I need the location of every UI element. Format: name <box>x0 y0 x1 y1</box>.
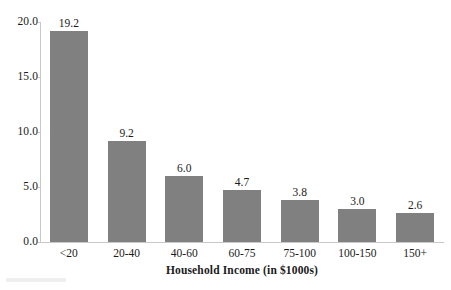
bar-value-label: 2.6 <box>384 199 446 211</box>
bar-group: 9.2 <box>108 14 146 242</box>
scan-artifact <box>6 278 66 282</box>
x-axis-tick-label: 20-40 <box>98 247 156 260</box>
bar-value-label: 9.2 <box>96 127 158 139</box>
bar-group: 4.7 <box>223 14 261 242</box>
x-axis-tick-labels: <2020-4040-6060-7575-100100-150150+ <box>40 247 444 263</box>
y-axis-tick-label: 15.0 <box>2 71 38 82</box>
y-axis-tick-label: 0.0 <box>2 236 38 247</box>
bar-group: 3.8 <box>281 14 319 242</box>
bar-group: 6.0 <box>165 14 203 242</box>
y-axis-tick-mark <box>38 242 41 243</box>
bar-group: 2.6 <box>396 14 434 242</box>
y-axis-tick-label: 10.0 <box>2 126 38 137</box>
bar-value-label: 4.7 <box>211 176 273 188</box>
x-axis-line <box>40 242 444 243</box>
bar-value-label: 3.8 <box>269 186 331 198</box>
bar[interactable] <box>50 31 88 242</box>
bar[interactable] <box>281 200 319 242</box>
x-axis-tick-label: 60-75 <box>213 247 271 260</box>
bar[interactable] <box>338 209 376 242</box>
y-axis: 0.05.010.015.020.0 <box>0 0 38 290</box>
x-axis-tick-label: 40-60 <box>155 247 213 260</box>
bar[interactable] <box>396 213 434 242</box>
bar-value-label: 6.0 <box>153 162 215 174</box>
bar[interactable] <box>108 141 146 242</box>
x-axis-title: Household Income (in $1000s) <box>40 264 444 277</box>
x-axis-tick-label: 100-150 <box>329 247 387 260</box>
bar-value-label: 3.0 <box>326 195 388 207</box>
y-axis-tick-label: 20.0 <box>2 16 38 27</box>
plot-area: 19.29.26.04.73.83.02.6 <box>40 14 444 242</box>
x-axis-tick-label: <20 <box>40 247 98 260</box>
x-axis-tick-label: 150+ <box>386 247 444 260</box>
bar[interactable] <box>165 176 203 242</box>
bar-group: 3.0 <box>338 14 376 242</box>
bar-value-label: 19.2 <box>38 17 100 29</box>
x-axis-tick-label: 75-100 <box>271 247 329 260</box>
bar-group: 19.2 <box>50 14 88 242</box>
bar[interactable] <box>223 190 261 242</box>
y-axis-tick-label: 5.0 <box>2 181 38 192</box>
bar-chart-figure: 0.05.010.015.020.0 19.29.26.04.73.83.02.… <box>0 0 451 290</box>
